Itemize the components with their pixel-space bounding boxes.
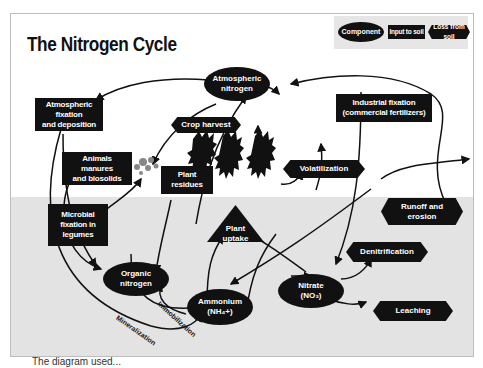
loss-runoff-erosion: Runoff and erosion — [381, 198, 463, 225]
input-plant-residues: Plant residues — [161, 166, 213, 194]
diagram-frame: The Nitrogen Cycle Component Input to so… — [10, 13, 474, 357]
input-animal-manures: Animals manures and biosolids — [62, 152, 132, 185]
component-nitrate: Nitrate (NO₃) — [278, 274, 344, 308]
figure-caption: The diagram used... — [32, 356, 121, 367]
input-microbial-fixation: Microbial fixation in legumes — [48, 204, 108, 246]
loss-denitrification: Denitrification — [346, 242, 428, 262]
component-atmospheric-nitrogen: Atmospheric nitrogen — [204, 67, 270, 101]
process-plant-uptake: Plant uptake — [207, 224, 264, 244]
input-atmospheric-fixation: Atmospheric fixation and deposition — [35, 98, 103, 131]
loss-volatilization: Volatilization — [283, 160, 365, 178]
component-organic-nitrogen: Organic nitrogen — [103, 262, 169, 296]
component-ammonium: Ammonium (NH₄+) — [187, 289, 253, 325]
input-industrial-fixation: Industrial fixation (commercial fertiliz… — [336, 94, 432, 122]
loss-leaching: Leaching — [373, 301, 453, 321]
loss-crop-harvest: Crop harvest — [171, 117, 241, 133]
